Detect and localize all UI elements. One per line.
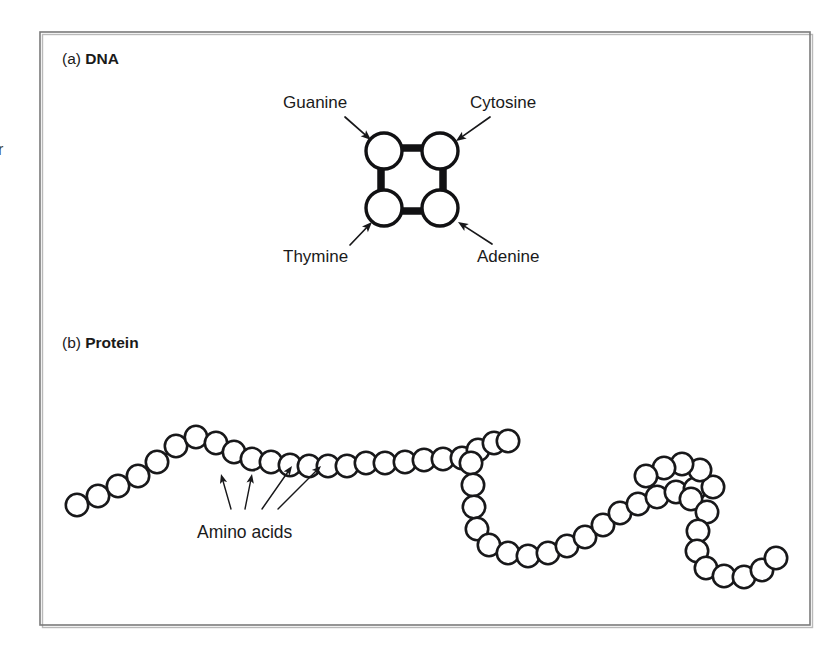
amino-acid-bead: [146, 451, 168, 473]
amino-acid-bead: [463, 496, 485, 518]
dna-base-thymine: [366, 190, 402, 226]
dna-label-guanine: Guanine: [283, 93, 347, 112]
amino-acid-bead: [497, 542, 519, 564]
amino-acid-bead: [127, 465, 149, 487]
dna-label-thymine: Thymine: [283, 247, 348, 266]
amino-acids-label: Amino acids: [197, 522, 293, 542]
figure-container: r (a) DNA GuanineCytosineThymineAdenine …: [0, 0, 832, 660]
panel-a-title: (a) DNA: [62, 50, 119, 67]
panel-b-title: (b) Protein: [62, 334, 139, 351]
dna-label-cytosine: Cytosine: [470, 93, 536, 112]
dna-base-adenine: [422, 190, 458, 226]
amino-acid-bead: [765, 547, 787, 569]
amino-acid-bead: [635, 465, 657, 487]
dna-label-adenine: Adenine: [477, 247, 539, 266]
dna-base-guanine: [366, 133, 402, 169]
amino-acid-bead: [460, 452, 482, 474]
amino-acid-bead: [517, 545, 539, 567]
amino-acid-bead: [497, 430, 519, 452]
biology-figure: r (a) DNA GuanineCytosineThymineAdenine …: [0, 0, 832, 660]
dna-base-cytosine: [422, 133, 458, 169]
amino-acid-bead: [66, 494, 88, 516]
amino-acid-bead: [462, 474, 484, 496]
